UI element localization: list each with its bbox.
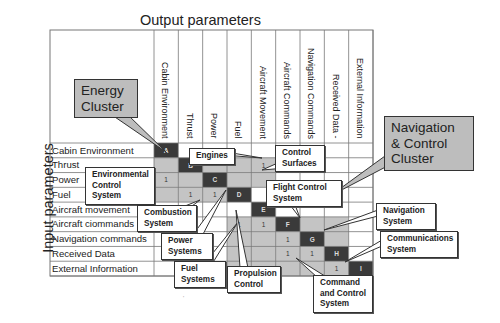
column-label: Fuel bbox=[233, 121, 243, 139]
matrix-cell bbox=[349, 232, 373, 247]
matrix-cell bbox=[300, 217, 324, 232]
callout-environmental-text: Environmental Control System bbox=[92, 170, 149, 200]
callout-communications-system: Communications System bbox=[380, 231, 458, 258]
dependency-value: 1 bbox=[335, 265, 339, 272]
row-label: Fuel bbox=[52, 188, 71, 202]
callout-flight-control-system: Flight Control System bbox=[266, 180, 342, 207]
callout-power-systems-text: Power Systems bbox=[168, 236, 202, 256]
row-label: Power bbox=[52, 173, 79, 187]
column-label: Received Data - bbox=[331, 74, 341, 139]
matrix-cell bbox=[251, 143, 275, 158]
callout-communications-text: Communications System bbox=[387, 234, 453, 254]
dependency-value: 1 bbox=[262, 221, 266, 228]
callout-environmental-control-system: Environmental Control System bbox=[85, 167, 155, 205]
callout-flight-control-text: Flight Control System bbox=[273, 183, 327, 203]
callout-control-surfaces-text: Control Surfaces bbox=[282, 148, 317, 168]
matrix-cell bbox=[251, 246, 275, 261]
matrix-cell bbox=[349, 187, 373, 202]
dependency-value: 1 bbox=[262, 162, 266, 169]
dependency-value: 1 bbox=[213, 191, 217, 198]
callout-combustion-text: Combustion System bbox=[144, 208, 192, 228]
column-label: Cabin Environment bbox=[160, 62, 170, 139]
callout-command-control-text: Command and Control System bbox=[320, 278, 366, 308]
dependency-value: 1 bbox=[189, 191, 193, 198]
output-parameters-title: Output parameters bbox=[140, 12, 261, 28]
callout-propulsion-control: Propulsion Control bbox=[227, 266, 281, 293]
row-label: Aircraft ciommands bbox=[52, 217, 134, 231]
callout-fuel-systems-text: Fuel Systems bbox=[181, 264, 215, 284]
energy-cluster-label: Energy Cluster bbox=[74, 79, 138, 118]
callout-engines: Engines bbox=[189, 148, 235, 165]
matrix-cell bbox=[178, 173, 202, 188]
matrix-cell bbox=[324, 158, 348, 173]
row-label: External Information bbox=[52, 262, 138, 276]
callout-control-surfaces: Control Surfaces bbox=[275, 145, 325, 172]
row-label: Thrust bbox=[52, 158, 79, 172]
diagonal-label: E bbox=[261, 206, 266, 213]
matrix-cell bbox=[324, 143, 348, 158]
energy-cluster-text: Energy Cluster bbox=[81, 83, 124, 114]
matrix-cell bbox=[227, 173, 251, 188]
row-label: Aircraft movement bbox=[52, 203, 130, 217]
callout-power-systems: Power Systems bbox=[161, 233, 213, 260]
diagonal-label: G bbox=[310, 236, 315, 243]
callout-navigation-system-text: Navigation System bbox=[383, 206, 425, 226]
callout-command-and-control-system: Command and Control System bbox=[313, 275, 373, 313]
row-label: Navigation commands bbox=[52, 232, 147, 246]
column-label: Power bbox=[209, 113, 219, 139]
callout-combustion-system: Combustion System bbox=[137, 205, 197, 232]
column-label: Aircraft Movement bbox=[258, 66, 268, 139]
matrix-cell bbox=[251, 232, 275, 247]
column-label: Navigation Commands bbox=[306, 48, 316, 139]
diagonal-label: H bbox=[334, 250, 339, 257]
matrix-cell bbox=[324, 232, 348, 247]
row-label: Received Data bbox=[52, 247, 115, 261]
callout-propulsion-text: Propulsion Control bbox=[234, 269, 277, 289]
dependency-value: 1 bbox=[286, 236, 290, 243]
matrix-cell bbox=[154, 187, 178, 202]
diagonal-label: F bbox=[286, 221, 290, 228]
footer-mark: ' bbox=[183, 295, 184, 301]
callout-fuel-systems: Fuel Systems bbox=[174, 261, 226, 288]
navigation-cluster-text: Navigation & Control Cluster bbox=[391, 120, 455, 166]
diagonal-label: I bbox=[360, 265, 362, 272]
dependency-value: 1 bbox=[286, 250, 290, 257]
column-label: Thrust bbox=[185, 113, 195, 139]
row-label: Cabin Environment bbox=[52, 144, 134, 158]
column-label: External Information bbox=[355, 58, 365, 139]
diagonal-label: C bbox=[212, 176, 217, 183]
matrix-cell bbox=[154, 158, 178, 173]
matrix-cell bbox=[227, 202, 251, 217]
callout-navigation-system: Navigation System bbox=[376, 203, 436, 230]
dependency-value: 1 bbox=[310, 250, 314, 257]
column-label: Aircraft Commands bbox=[282, 62, 292, 139]
navigation-cluster-label: Navigation & Control Cluster bbox=[384, 116, 474, 171]
diagonal-label: D bbox=[237, 191, 242, 198]
matrix-cell bbox=[349, 143, 373, 158]
callout-engines-text: Engines bbox=[196, 151, 228, 160]
dependency-value: 1 bbox=[164, 176, 168, 183]
